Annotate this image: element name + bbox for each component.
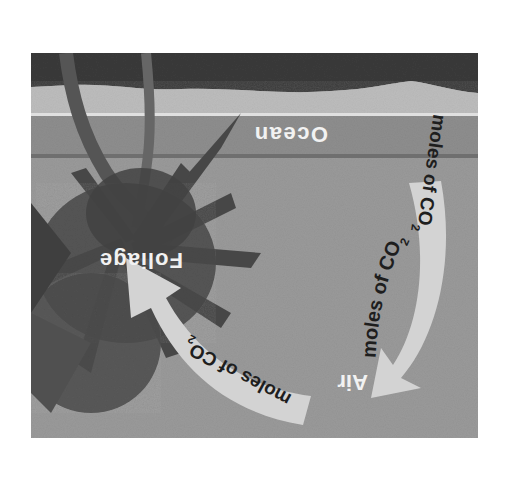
- foliage-label: Foliage: [99, 248, 183, 273]
- co2-cycle-figure: moles of CO2 Ocean Foliage Air moles of …: [31, 53, 478, 438]
- air-label: Air: [337, 370, 368, 395]
- co2-cycle-illustration: moles of CO2 Ocean Foliage Air moles of …: [31, 53, 478, 438]
- ocean-label: Ocean: [253, 122, 328, 147]
